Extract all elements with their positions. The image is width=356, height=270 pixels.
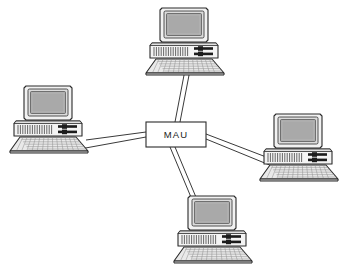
cable-mau-to-left (80, 132, 146, 149)
workstation-top[interactable] (146, 8, 224, 75)
cable-mau-to-bottom (170, 147, 198, 202)
network-diagram: MAU (0, 0, 356, 270)
mau-hub[interactable]: MAU (146, 122, 206, 147)
workstation-right[interactable] (260, 114, 338, 181)
mau-hub-label: MAU (164, 129, 188, 140)
workstation-bottom[interactable] (174, 196, 252, 263)
diagram-canvas: MAU (0, 0, 356, 270)
workstation-left[interactable] (10, 86, 88, 153)
cable-mau-to-top (175, 70, 190, 122)
